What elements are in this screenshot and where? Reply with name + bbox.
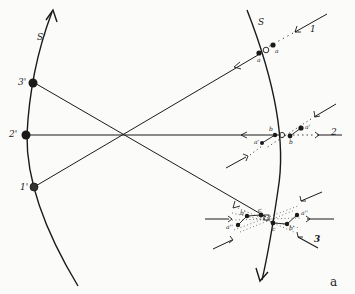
label-a-dprime-right: a'' <box>301 210 308 216</box>
connector <box>262 135 275 143</box>
ray-3-arrowhead-icon <box>297 232 303 237</box>
left-arc-s-prime <box>27 12 78 286</box>
connector <box>290 128 301 136</box>
label-b-left: b <box>269 126 273 132</box>
line-1prime-to-a <box>34 55 258 187</box>
ray-lower-left <box>213 240 232 249</box>
label-c-top: c <box>258 207 261 213</box>
label-ray-2: 2 <box>331 128 337 137</box>
label-1-prime: 1' <box>20 183 28 192</box>
label-b-prime-right: b' <box>289 225 295 231</box>
label-a-dprime-left: a'' <box>226 224 233 230</box>
arrow-tick-icon <box>229 236 233 243</box>
arrow-tick-icon <box>233 201 240 208</box>
dotted-lower <box>250 146 262 155</box>
point-2-prime <box>22 131 31 140</box>
label-c-bottom: c <box>272 226 275 232</box>
focal-open-circle <box>263 47 269 53</box>
label-a-right: a <box>275 48 279 54</box>
ray-upper-right <box>301 192 322 201</box>
ray-diag-upper <box>314 104 336 117</box>
label-a-prime-right: a' <box>305 124 310 130</box>
right-arc-arrowhead-icon <box>256 268 268 281</box>
figure-caption: a <box>330 275 337 289</box>
label-ray-1: 1 <box>310 25 316 34</box>
ray-diag-lower <box>226 157 246 168</box>
label-3-prime: 3' <box>18 78 26 87</box>
left-arc-arrowhead-icon <box>46 10 57 22</box>
label-b-prime-left: b' <box>240 210 246 216</box>
line-3prime-to-c <box>33 82 266 217</box>
optics-diagram <box>0 0 355 294</box>
label-a-prime-left: a' <box>254 139 259 145</box>
label-s: S <box>258 18 264 27</box>
point-3-prime <box>29 79 38 88</box>
label-ray-3: 3 <box>314 235 320 244</box>
label-b-right: b <box>289 139 293 145</box>
label-a-left: a <box>257 57 261 63</box>
label-2-prime: 2' <box>9 130 17 139</box>
image-a-left <box>256 50 261 55</box>
point-1-prime <box>30 183 38 191</box>
label-s-prime: S' <box>37 33 46 42</box>
